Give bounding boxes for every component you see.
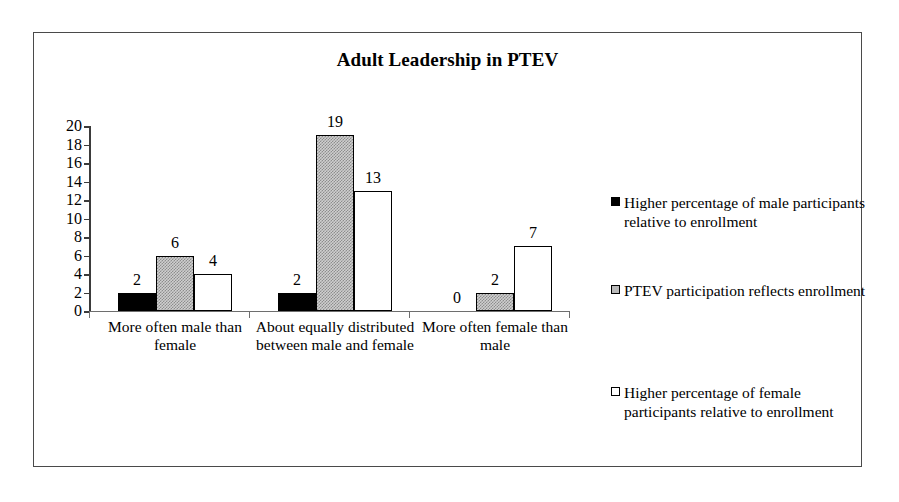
category-label: About equally distributed between male a… [255,318,415,354]
bar-value-label: 2 [293,272,301,288]
bar-value-label: 2 [491,272,499,288]
bar [354,191,392,311]
bar [194,274,232,311]
bar [118,293,156,312]
legend-label: PTEV participation reflects enrollment [624,281,865,300]
y-tick-mark [84,163,90,165]
y-tick-label: 18 [66,137,82,153]
legend-swatch-icon [611,285,620,294]
y-tick-mark [84,145,90,147]
y-tick-mark [84,126,90,128]
legend-swatch-icon [611,387,620,396]
x-axis-line [89,311,569,312]
legend-item[interactable]: Higher percentage of male participants r… [611,193,869,231]
y-tick-mark [84,293,90,295]
bar [156,256,194,312]
y-tick-mark [84,219,90,221]
bar-value-label: 7 [529,225,537,241]
x-tick-mark [249,311,250,318]
y-tick-label: 12 [66,192,82,208]
y-tick-mark [84,274,90,276]
bar-value-label: 6 [171,235,179,251]
legend-swatch-icon [611,197,620,206]
bar-value-label: 0 [453,290,461,306]
y-tick-label: 16 [66,155,82,171]
bar [316,135,354,311]
bar-value-label: 4 [209,253,217,269]
y-tick-label: 20 [66,118,82,134]
y-tick-label: 4 [74,266,82,282]
y-tick-label: 0 [74,303,82,319]
y-tick-label: 8 [74,229,82,245]
legend-label: Higher percentage of female participants… [624,383,869,421]
bar-value-label: 13 [365,170,381,186]
y-tick-mark [84,256,90,258]
y-tick-mark [84,237,90,239]
x-tick-mark [89,311,90,318]
y-tick-label: 10 [66,211,82,227]
bar [278,293,316,312]
plot-area: 02468101214161820 26421913027 More often… [89,126,569,311]
category-label: More often female than male [420,318,570,354]
x-tick-mark [409,311,410,318]
bar-value-label: 2 [133,272,141,288]
category-label: More often male than female [100,318,250,354]
y-tick-mark [84,200,90,202]
legend-item[interactable]: Higher percentage of female participants… [611,383,869,421]
legend-item[interactable]: PTEV participation reflects enrollment [611,281,865,300]
y-tick-label: 2 [74,285,82,301]
figure-border: Adult Leadership in PTEV 024681012141618… [33,32,862,467]
bar-value-label: 19 [327,114,343,130]
chart-title: Adult Leadership in PTEV [34,49,861,71]
chart-figure: Adult Leadership in PTEV 024681012141618… [0,0,899,502]
y-tick-label: 6 [74,248,82,264]
x-tick-mark [569,311,570,318]
legend-label: Higher percentage of male participants r… [624,193,869,231]
bar [476,293,514,312]
y-tick-label: 14 [66,174,82,190]
y-tick-mark [84,182,90,184]
bar [514,246,552,311]
